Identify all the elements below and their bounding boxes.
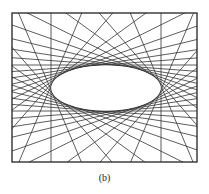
ellipse-tangent-envelope-diagram (0, 0, 209, 194)
ellipse (51, 65, 160, 110)
figure-caption: (b) (0, 172, 209, 183)
